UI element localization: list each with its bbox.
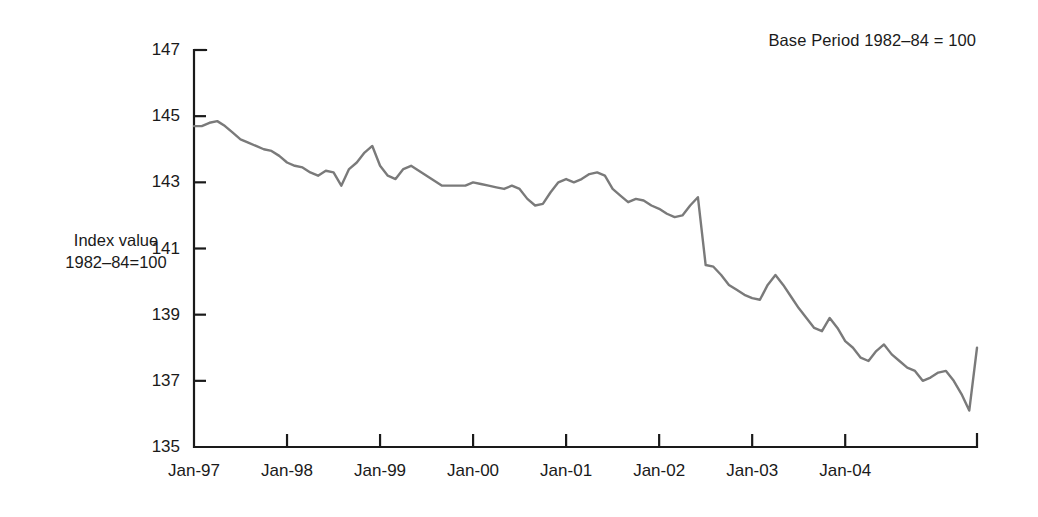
axes xyxy=(194,50,977,447)
x-tick-label: Jan-01 xyxy=(540,461,592,481)
y-tick-label: 143 xyxy=(118,172,180,192)
y-tick-label: 147 xyxy=(118,40,180,60)
y-tick-label: 145 xyxy=(118,106,180,126)
y-tick-label: 137 xyxy=(118,371,180,391)
data-series-line xyxy=(194,121,977,410)
x-tick-label: Jan-00 xyxy=(447,461,499,481)
axis-lines xyxy=(194,50,977,447)
y-tick-marks xyxy=(194,50,206,381)
y-tick-label: 141 xyxy=(118,239,180,259)
x-tick-label: Jan-02 xyxy=(633,461,685,481)
x-tick-label: Jan-98 xyxy=(261,461,313,481)
x-tick-label: Jan-04 xyxy=(819,461,871,481)
chart-figure: Base Period 1982–84 = 100 Index value 19… xyxy=(0,0,1038,517)
x-tick-label: Jan-03 xyxy=(726,461,778,481)
base-period-annotation: Base Period 1982–84 = 100 xyxy=(768,31,976,50)
y-tick-label: 135 xyxy=(118,437,180,457)
x-tick-label: Jan-99 xyxy=(354,461,406,481)
x-tick-marks xyxy=(287,434,845,447)
y-tick-label: 139 xyxy=(118,305,180,325)
x-tick-label: Jan-97 xyxy=(168,461,220,481)
